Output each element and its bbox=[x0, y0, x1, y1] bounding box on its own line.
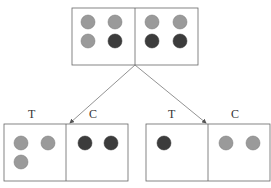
assignment-right: T C bbox=[146, 107, 270, 181]
top-population-box bbox=[72, 8, 198, 65]
control-label: C bbox=[89, 107, 97, 121]
randomization-diagram: T C T C bbox=[0, 0, 271, 188]
treatment-label: T bbox=[28, 107, 36, 121]
treatment-label: T bbox=[168, 107, 176, 121]
control-label: C bbox=[231, 107, 239, 121]
assignment-left: T C bbox=[4, 107, 128, 181]
arrow-left bbox=[70, 65, 135, 123]
